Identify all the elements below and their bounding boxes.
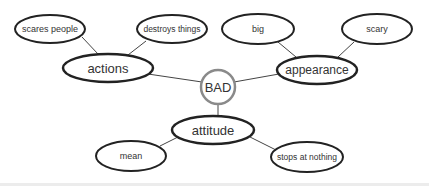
node-big: big [222,14,294,44]
node-label: scares people [22,24,78,34]
node-label: stops at nothing [277,152,337,162]
node-label: actions [87,61,129,76]
node-label: destroys things [143,24,200,34]
center-node-bad: BAD [201,70,235,104]
bottom-band [0,183,429,186]
node-mean: mean [96,141,166,171]
node-destroys-things: destroys things [137,15,207,43]
node-label: mean [120,151,143,161]
node-label: scary [366,24,388,34]
node-actions: actions [63,54,153,82]
node-scary: scary [342,14,412,44]
edge-bad-appearance [234,74,279,82]
center-label: BAD [205,80,232,95]
node-scares-people: scares people [15,15,85,43]
edge-bad-actions [148,74,202,82]
edge-attitude-mean [160,137,178,146]
edge-actions-destroys-things [128,41,146,55]
node-attitude: attitude [172,116,254,144]
edge-attitude-stops-at-nothing [250,137,276,150]
node-label: appearance [285,63,349,77]
edge-actions-scares-people [82,37,98,54]
edge-appearance-big [278,42,296,57]
node-label: big [252,24,264,34]
node-stops-at-nothing: stops at nothing [271,142,343,172]
mind-map-diagram: actionsappearanceattitudescares peoplede… [0,0,429,186]
node-appearance: appearance [277,56,357,84]
edge-appearance-scary [338,42,354,57]
node-label: attitude [192,123,235,138]
